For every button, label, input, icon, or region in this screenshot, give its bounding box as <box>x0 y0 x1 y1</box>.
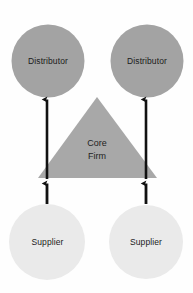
supply-chain-diagram: Distributor Distributor Core Firm Suppli… <box>0 0 193 293</box>
node-supplier-left-shape <box>9 204 85 280</box>
node-core-firm-shape <box>38 97 157 178</box>
node-distributor-right-shape <box>111 25 184 98</box>
diagram-canvas-svg <box>0 0 193 293</box>
node-distributor-left-shape <box>12 25 85 98</box>
node-supplier-right-shape <box>109 205 183 279</box>
